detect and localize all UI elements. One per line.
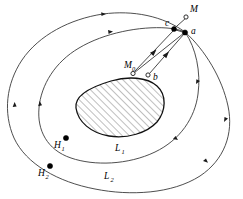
point-M0 xyxy=(131,71,135,75)
arrow-L2-left xyxy=(13,102,17,107)
label-L2: L xyxy=(103,171,109,181)
arrow-L2-top xyxy=(101,12,106,16)
label-H2-subscript: 2 xyxy=(46,173,50,180)
figure-container: M c a b M 0 H 1 H 2 L 1 L 2 xyxy=(0,0,243,199)
segment-a-to-M0 xyxy=(135,33,185,73)
diagram-svg: M c a b M 0 H 1 H 2 L 1 L 2 xyxy=(0,0,243,199)
label-a: a xyxy=(191,26,196,36)
point-H1 xyxy=(63,135,68,140)
label-b: b xyxy=(153,72,158,82)
arrow-L1-top xyxy=(108,30,113,34)
label-H1-subscript: 1 xyxy=(62,145,65,152)
label-L2-subscript: 2 xyxy=(111,176,115,183)
label-L1-subscript: 1 xyxy=(122,148,125,155)
label-M: M xyxy=(189,4,199,14)
arrow-segment-M0-c xyxy=(150,50,157,57)
point-M xyxy=(184,15,188,19)
arrow-L2-right xyxy=(224,117,228,122)
label-L1: L xyxy=(114,143,120,153)
invariant-region xyxy=(76,78,164,137)
point-H2 xyxy=(47,163,52,168)
point-a xyxy=(182,30,187,35)
point-b xyxy=(146,73,150,77)
segment-M-to-c xyxy=(175,19,185,28)
arrow-L1-right xyxy=(196,79,200,84)
point-c xyxy=(172,27,177,32)
arrow-L2-bottom-right xyxy=(203,159,208,163)
